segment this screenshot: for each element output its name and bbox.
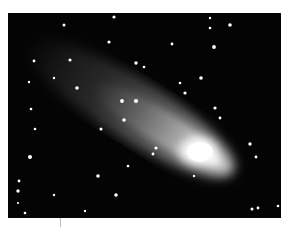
comet-scene xyxy=(8,13,281,218)
comet-photo xyxy=(8,13,281,218)
comet-nucleus xyxy=(174,133,222,169)
frame-tick-mark xyxy=(60,218,61,227)
